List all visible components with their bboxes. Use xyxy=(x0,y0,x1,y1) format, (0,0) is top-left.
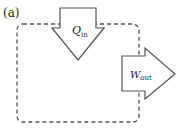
work-out-arrow: Wout xyxy=(122,48,175,99)
diagram-canvas: (a) Qin Wout xyxy=(0,0,183,129)
heat-in-arrow: Qin xyxy=(52,8,104,60)
panel-label: (a) xyxy=(3,6,20,20)
